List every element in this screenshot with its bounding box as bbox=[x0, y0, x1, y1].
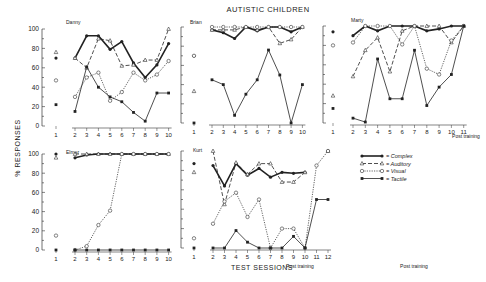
x-tick-label: 10 bbox=[165, 132, 172, 138]
x-tick-label: 7 bbox=[413, 129, 417, 135]
panel-marty: 1234567891011Marty bbox=[323, 17, 467, 135]
x-tick-label: 8 bbox=[278, 129, 282, 135]
series-visual bbox=[75, 154, 169, 250]
x-tick-label: 3 bbox=[364, 129, 368, 135]
subject-name: Brian bbox=[190, 19, 202, 25]
legend-tactile: = Tactile bbox=[386, 176, 406, 182]
x-tick-label: 2 bbox=[73, 132, 77, 138]
x-tick-label: 7 bbox=[132, 256, 136, 262]
legend-visual: = Visual bbox=[386, 168, 406, 174]
figure-title: AUTISTIC CHILDREN bbox=[226, 5, 309, 14]
x-tick-label: 4 bbox=[233, 129, 237, 135]
x-tick-label: 9 bbox=[155, 256, 159, 262]
panel-elmer: 02040608010012345678910Elmer bbox=[28, 149, 172, 262]
x-tick-label: 6 bbox=[120, 256, 124, 262]
y-tick-label: 60 bbox=[32, 64, 40, 71]
x-tick-label: 4 bbox=[97, 256, 101, 262]
x-tick-label: 4 bbox=[97, 132, 101, 138]
x-tick-label: 9 bbox=[289, 129, 293, 135]
x-tick-label: 6 bbox=[257, 254, 261, 260]
x-tick-label: 4 bbox=[376, 129, 380, 135]
x-tick-label: 6 bbox=[256, 129, 260, 135]
figure: AUTISTIC CHILDREN % RESPONSES TEST SESSI… bbox=[0, 0, 486, 282]
x-tick-label: 9 bbox=[155, 132, 159, 138]
x-axis-label: TEST SESSIONS bbox=[231, 264, 293, 271]
x-tick-label: 11 bbox=[313, 254, 320, 260]
y-tick-label: 80 bbox=[32, 170, 40, 177]
y-tick-label: 100 bbox=[28, 25, 39, 32]
x-tick-label: 8 bbox=[144, 132, 148, 138]
y-tick-label: 80 bbox=[32, 45, 40, 52]
x-tick-label: 10 bbox=[302, 254, 309, 260]
x-tick-label: 6 bbox=[120, 132, 124, 138]
x-tick-label: 3 bbox=[223, 254, 227, 260]
x-tick-label: 2 bbox=[210, 129, 214, 135]
x-tick-label: 6 bbox=[401, 129, 405, 135]
x-tick-label: 8 bbox=[280, 254, 284, 260]
x-tick-label: 5 bbox=[108, 256, 112, 262]
x-tick-label: 8 bbox=[144, 256, 148, 262]
series-tactile bbox=[353, 26, 464, 122]
y-tick-label: 60 bbox=[32, 189, 40, 196]
panel-danny: 02040608010012345678910Danny bbox=[28, 19, 172, 138]
x-tick-label: 1 bbox=[54, 132, 58, 138]
panels: 02040608010012345678910Danny12345678910B… bbox=[28, 17, 467, 262]
x-tick-label: 10 bbox=[299, 129, 306, 135]
x-tick-label: 2 bbox=[211, 254, 215, 260]
y-tick-label: 40 bbox=[32, 84, 40, 91]
subject-name: Kurt bbox=[193, 147, 203, 153]
x-tick-label: 8 bbox=[425, 129, 429, 135]
x-tick-label: 2 bbox=[351, 129, 355, 135]
series-visual bbox=[213, 151, 328, 248]
x-tick-label: 5 bbox=[246, 254, 250, 260]
legend-auditory: = Auditory bbox=[386, 161, 412, 167]
series-auditory bbox=[75, 29, 169, 68]
y-tick-label: 20 bbox=[32, 227, 40, 234]
y-tick-label: 0 bbox=[35, 122, 39, 129]
x-tick-label: 2 bbox=[73, 256, 77, 262]
series-auditory bbox=[353, 26, 464, 76]
x-tick-label: 3 bbox=[85, 256, 89, 262]
x-tick-label: 3 bbox=[85, 132, 89, 138]
legend: = Complex= Auditory= Visual= TactilePost… bbox=[286, 133, 480, 269]
series-auditory bbox=[213, 151, 305, 204]
x-tick-label: 9 bbox=[292, 254, 296, 260]
x-tick-label: 7 bbox=[132, 132, 136, 138]
post-training-label: Post training bbox=[286, 263, 314, 269]
series-tactile bbox=[212, 50, 302, 123]
x-tick-label: 5 bbox=[244, 129, 248, 135]
x-tick-label: 7 bbox=[269, 254, 273, 260]
subject-name: Danny bbox=[66, 19, 81, 25]
legend-complex: = Complex bbox=[386, 153, 413, 159]
x-tick-label: 5 bbox=[108, 132, 112, 138]
subject-name: Marty bbox=[351, 17, 364, 23]
series-visual bbox=[353, 26, 464, 75]
x-tick-label: 5 bbox=[388, 129, 392, 135]
x-tick-label: 1 bbox=[192, 254, 196, 260]
panel-kurt: 123456789101112Kurt bbox=[181, 147, 332, 260]
y-tick-label: 20 bbox=[32, 103, 40, 110]
x-tick-label: 1 bbox=[331, 129, 335, 135]
y-tick-label: 100 bbox=[28, 150, 39, 157]
x-tick-label: 4 bbox=[234, 254, 238, 260]
x-tick-label: 3 bbox=[222, 129, 226, 135]
post-training-label: Post training bbox=[400, 263, 428, 269]
y-tick-label: 40 bbox=[32, 208, 40, 215]
x-tick-label: 12 bbox=[325, 254, 332, 260]
y-axis-label: % RESPONSES bbox=[14, 119, 21, 176]
series-complex bbox=[353, 26, 464, 36]
x-tick-label: 1 bbox=[192, 129, 196, 135]
x-tick-label: 7 bbox=[267, 129, 271, 135]
y-tick-label: 0 bbox=[35, 246, 39, 253]
x-tick-label: 10 bbox=[165, 256, 172, 262]
x-tick-label: 9 bbox=[437, 129, 441, 135]
x-tick-label: 1 bbox=[54, 256, 58, 262]
panel-brian: 12345678910Brian bbox=[181, 19, 306, 135]
post-training-label: Post training bbox=[452, 133, 480, 139]
